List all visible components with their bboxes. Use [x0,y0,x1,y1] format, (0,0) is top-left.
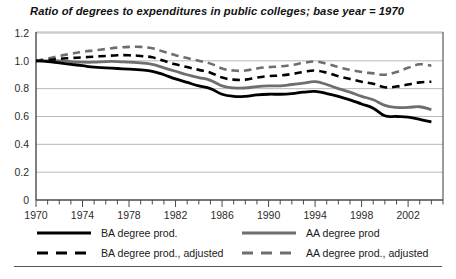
legend-entry-aa-degree-prod: AA degree prod [241,224,380,242]
legend-label-ba-degree-prod: BA degree prod. [101,224,178,242]
footer-divider [14,266,442,267]
x-tick-label: 1970 [24,209,48,219]
chart-title: Ratio of degrees to expenditures in publ… [30,5,404,17]
y-tick-label: 0.8 [14,82,29,94]
legend-swatch-aa-solid [241,227,297,239]
y-tick-label: 1.0 [14,55,29,67]
x-axis-ticks [36,200,443,207]
x-tick-label: 1998 [350,209,374,219]
x-tick-label: 2002 [396,209,420,219]
plot-svg: 00.20.40.60.81.01.2 19701974197819821986… [0,24,456,219]
plot-area: 00.20.40.60.81.01.2 19701974197819821986… [0,24,456,219]
y-axis-tick-labels: 00.20.40.60.81.01.2 [14,27,29,206]
y-tick-label: 0 [23,194,29,206]
x-axis-tick-labels: 197019741978198219861990199419982002 [24,209,420,219]
legend-label-ba-degree-prod-adjusted: BA degree prod., adjusted [101,244,224,262]
x-tick-label: 1986 [210,209,234,219]
x-tick-label: 1990 [257,209,281,219]
legend-entry-ba-degree-prod: BA degree prod. [36,224,178,242]
data-series-group [36,47,431,122]
y-tick-label: 0.2 [14,166,29,178]
x-tick-label: 1982 [164,209,188,219]
gridlines [36,33,443,172]
chart-legend: BA degree prod. AA degree prod BA degree… [0,224,456,264]
legend-swatch-ba-solid [36,227,92,239]
legend-swatch-aa-dashed [241,247,297,259]
legend-label-aa-degree-prod-adjusted: AA degree prod., adjusted [306,244,429,262]
y-tick-label: 1.2 [14,27,29,39]
legend-entry-aa-degree-prod-adjusted: AA degree prod., adjusted [241,244,429,262]
y-tick-label: 0.4 [14,138,29,150]
x-tick-label: 1974 [71,209,95,219]
legend-swatch-ba-dashed [36,247,92,259]
legend-entry-ba-degree-prod-adjusted: BA degree prod., adjusted [36,244,224,262]
chart-figure: Ratio of degrees to expenditures in publ… [0,0,456,279]
x-tick-label: 1978 [117,209,141,219]
y-tick-label: 0.6 [14,110,29,122]
x-tick-label: 1994 [303,209,327,219]
legend-label-aa-degree-prod: AA degree prod [306,224,380,242]
